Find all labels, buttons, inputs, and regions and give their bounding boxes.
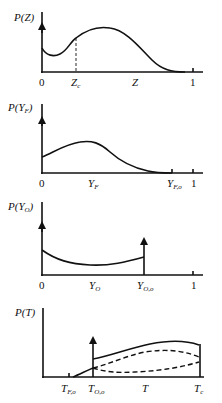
tick-label-yoo: YO,o <box>137 279 154 293</box>
tick-label-one: 1 <box>190 76 196 88</box>
y-axis-label: P(T) <box>14 306 36 319</box>
y-axis-label: P(YO) <box>7 200 34 214</box>
tick-label-yo: YO <box>89 279 100 293</box>
panel-fuel-mass-fraction: P(YF) 0 YF YF,o 1 <box>7 101 203 191</box>
tick-label-one: 1 <box>191 279 197 291</box>
tick-label-yf: YF <box>88 177 99 191</box>
y-axis-label: P(Z) <box>13 11 35 24</box>
tick-label-zero: 0 <box>39 279 45 291</box>
tick-label-yfo: YF,o <box>167 177 182 191</box>
panel-oxidizer-mass-fraction: P(YO) 0 YO YO,o 1 <box>7 200 203 293</box>
pdf-curve <box>42 141 172 173</box>
tick-label-zc: Zc <box>71 76 81 90</box>
tick-label-zero: 0 <box>39 76 45 88</box>
tick-label-zero: 0 <box>39 177 45 189</box>
pdf-curve <box>42 250 144 265</box>
tick-label-one: 1 <box>191 177 197 189</box>
panel-temperature: P(T) TF,o TO,o T Tc <box>14 306 204 396</box>
tick-label-too: TO,o <box>88 382 105 396</box>
pdf-diagram: P(Z) 0 Zc Z 1 P(YF) 0 YF YF,o 1 P(YO) <box>0 0 222 403</box>
tick-label-tc: Tc <box>194 382 204 396</box>
tick-label-t: T <box>142 382 149 394</box>
y-axis-label: P(YF) <box>7 101 33 115</box>
panel-mixture-fraction: P(Z) 0 Zc Z 1 <box>13 11 203 90</box>
ramp-curve <box>73 368 93 377</box>
tick-label-z: Z <box>132 76 139 88</box>
pdf-curve <box>42 27 185 72</box>
solid-curve <box>93 341 199 359</box>
tick-label-tfo: TF,o <box>61 382 76 396</box>
